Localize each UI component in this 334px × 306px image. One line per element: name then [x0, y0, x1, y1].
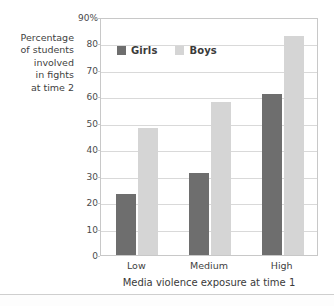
y-tick-label: 0 — [62, 251, 98, 261]
x-tick-label: Medium — [190, 260, 228, 271]
y-axis-label-line: in fights — [2, 69, 74, 81]
x-axis-ticks: LowMediumHigh — [100, 260, 318, 276]
y-tick-label: 40 — [62, 145, 98, 155]
y-tick-label: 90% — [62, 13, 98, 23]
bar-boys-medium — [211, 102, 231, 255]
bottom-strip — [0, 295, 334, 306]
legend-label: Boys — [189, 45, 216, 56]
chart-figure: Percentage of students involved in fight… — [0, 0, 334, 306]
bar-boys-low — [138, 128, 158, 255]
bar-girls-medium — [189, 173, 209, 255]
bar-boys-high — [284, 36, 304, 255]
y-tick-mark — [96, 256, 100, 257]
legend-swatch-icon — [117, 46, 126, 55]
y-axis-label-line: Percentage — [2, 32, 74, 44]
legend-swatch-icon — [175, 46, 184, 55]
bar-girls-low — [116, 194, 136, 255]
bar-girls-high — [262, 94, 282, 255]
plot-area: Girls Boys — [100, 18, 318, 256]
x-axis-label: Media violence exposure at time 1 — [100, 277, 318, 288]
chart-legend: Girls Boys — [117, 45, 217, 56]
y-tick-label: 30 — [62, 172, 98, 182]
x-tick-label: Low — [127, 260, 146, 271]
y-axis-label-line: at time 2 — [2, 82, 74, 94]
y-axis-label-line: of students — [2, 44, 74, 56]
y-axis-label-line: involved — [2, 57, 74, 69]
y-axis-label: Percentage of students involved in fight… — [2, 32, 74, 94]
legend-item-girls: Girls — [117, 45, 157, 56]
legend-label: Girls — [131, 45, 157, 56]
y-tick-label: 20 — [62, 198, 98, 208]
y-tick-label: 50 — [62, 119, 98, 129]
legend-item-boys: Boys — [175, 45, 216, 56]
x-tick-label: High — [271, 260, 293, 271]
y-tick-label: 10 — [62, 225, 98, 235]
